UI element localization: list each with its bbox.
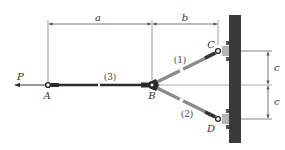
pin-a (46, 83, 51, 88)
member-2-label: (2) (181, 109, 194, 119)
pin-b (150, 83, 154, 87)
dimension-c-upper-label: c (274, 62, 280, 73)
wall (229, 15, 241, 143)
extension-lines (48, 20, 218, 83)
dimension-c-lower-label: c (274, 96, 280, 107)
force-p: P (15, 71, 45, 85)
bracket-d (222, 109, 229, 129)
point-b-label: B (147, 90, 155, 101)
member-1-label: (1) (174, 55, 187, 65)
truss-diagram: a b c c (1) (0, 0, 285, 150)
dimension-a: a (49, 12, 151, 24)
point-d-label: D (206, 123, 215, 134)
member-3: (3) (50, 72, 150, 88)
dimension-a-label: a (95, 12, 101, 23)
bracket-c (222, 41, 229, 61)
dimension-c-lower: c (268, 86, 280, 118)
dimension-b-label: b (182, 12, 188, 23)
point-a-label: A (42, 90, 50, 101)
member-3-label: (3) (104, 72, 117, 82)
pin-d (216, 117, 221, 122)
point-c-label: C (207, 39, 215, 50)
dimension-b: b (153, 12, 217, 24)
pin-c (216, 49, 221, 54)
member-1: (1) (155, 49, 220, 83)
dimension-c-upper: c (268, 52, 280, 84)
force-p-label: P (16, 71, 24, 82)
member-2: (2) (155, 87, 220, 121)
